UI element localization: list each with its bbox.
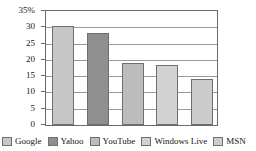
legend-label: Google: [15, 136, 42, 146]
bar-chart: 35%302520151050 GoogleYahooYouTubeWindow…: [0, 0, 256, 151]
legend-label: YouTube: [103, 136, 136, 146]
plot-area-wrapper: 35%302520151050: [0, 0, 256, 130]
y-axis-labels: 35%302520151050: [0, 0, 41, 130]
bar: [156, 65, 178, 125]
legend-item[interactable]: YouTube: [90, 136, 136, 146]
y-axis-tick-label: 30: [26, 22, 35, 31]
legend-item[interactable]: Windows Live: [141, 136, 207, 146]
chart-legend: GoogleYahooYouTubeWindows LiveMSN: [0, 131, 256, 151]
plot-frame: [45, 10, 218, 126]
legend-swatch-icon: [90, 137, 100, 146]
bar: [87, 33, 109, 125]
legend-item[interactable]: Google: [2, 136, 42, 146]
legend-item[interactable]: MSN: [213, 136, 246, 146]
y-axis-tick-label: 15: [26, 71, 35, 80]
bar: [122, 63, 144, 125]
y-axis-tick-label: 35%: [19, 6, 36, 15]
legend-label: MSN: [226, 136, 246, 146]
legend-swatch-icon: [213, 137, 223, 146]
y-axis-tick-label: 5: [31, 104, 36, 113]
legend-item[interactable]: Yahoo: [48, 136, 84, 146]
legend-swatch-icon: [141, 137, 151, 146]
bar: [191, 79, 213, 125]
y-axis-tick-label: 0: [31, 120, 36, 129]
y-axis-tick-label: 20: [26, 55, 35, 64]
y-axis-tick-label: 25: [26, 39, 35, 48]
legend-label: Windows Live: [154, 136, 207, 146]
legend-swatch-icon: [2, 137, 12, 146]
y-axis-tick-label: 10: [26, 87, 35, 96]
bars-group: [46, 11, 217, 125]
legend-swatch-icon: [48, 137, 58, 146]
legend-label: Yahoo: [61, 136, 84, 146]
bar: [52, 26, 74, 125]
